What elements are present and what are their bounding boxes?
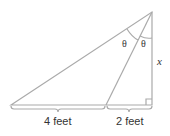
left-segment-label: 4 feet [44,115,72,127]
angle-label-left: θ [122,38,127,49]
triangle-diagram: θ θ x 4 feet 2 feet [0,0,170,136]
inner-cevian [106,12,152,105]
brace-left [11,106,105,112]
right-segment-label: 2 feet [116,115,144,127]
angle-arc-left [127,29,138,40]
outer-triangle [11,12,152,105]
height-label: x [156,55,162,67]
angle-label-right: θ [141,38,146,49]
brace-right [107,106,152,112]
right-angle-mark [146,99,152,105]
